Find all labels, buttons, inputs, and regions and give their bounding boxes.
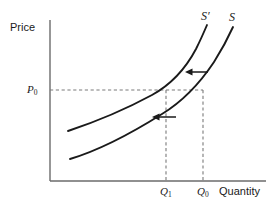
q0-subscript: 0 [205, 190, 209, 199]
curve-s-prime [68, 25, 207, 131]
q1-base: Q [160, 185, 168, 197]
curve-label-s: S [229, 11, 235, 23]
supply-curves [68, 25, 233, 159]
y-axis-title: Price [10, 22, 35, 33]
q1-subscript: 1 [168, 190, 172, 199]
shift-arrow-lower-icon [152, 114, 176, 121]
p0-base: P [27, 83, 34, 95]
q0-base: Q [197, 185, 205, 197]
x-tick-label-q0: Q0 [197, 186, 209, 197]
curve-s [70, 27, 233, 159]
diagram-canvas [0, 0, 277, 207]
shift-arrows [152, 69, 208, 121]
axes [50, 20, 266, 181]
p0-subscript: 0 [34, 88, 38, 97]
x-axis-title: Quantity [219, 186, 260, 197]
x-tick-label-q1: Q1 [160, 186, 172, 197]
curve-label-s-prime: S′ [201, 10, 210, 22]
supply-shift-diagram: Price Quantity P0 Q1 Q0 S′ S [0, 0, 277, 207]
s-prime-mark: ′ [207, 9, 210, 23]
y-tick-label-p0: P0 [27, 84, 37, 95]
